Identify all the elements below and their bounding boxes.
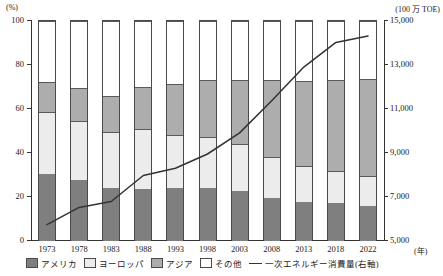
bar-segment-asia <box>232 80 248 144</box>
x-tick-label-2013: 2013 <box>289 244 319 254</box>
legend-swatch-america-icon <box>26 258 38 268</box>
legend-label-asia: アジア <box>166 257 193 269</box>
legend-item-europe: ヨーロッパ <box>84 257 144 269</box>
left-tick-label: 80 <box>0 59 24 69</box>
bar-segment-other <box>200 21 216 80</box>
bar-1973 <box>38 20 56 240</box>
bar-segment-europe <box>71 121 87 180</box>
right-tick-mark <box>384 152 388 153</box>
left-tick-label: 100 <box>0 15 24 25</box>
right-tick-label: 9,000 <box>390 147 409 157</box>
bar-segment-america <box>328 203 344 241</box>
legend-swatch-asia-icon <box>151 258 163 268</box>
bar-segment-asia <box>200 80 216 137</box>
left-tick-mark <box>27 240 31 241</box>
bar-segment-europe <box>103 132 119 187</box>
legend-swatch-europe-icon <box>84 258 96 268</box>
left-tick-label: 0 <box>0 235 24 245</box>
left-tick-mark <box>27 196 31 197</box>
bar-segment-america <box>360 206 376 241</box>
bar-2022 <box>359 20 377 240</box>
right-tick-label: 13,000 <box>390 59 413 69</box>
right-axis-line <box>384 20 385 240</box>
legend-label-europe: ヨーロッパ <box>99 257 144 269</box>
left-tick-mark <box>27 152 31 153</box>
bar-segment-america <box>264 198 280 241</box>
bar-segment-america <box>39 174 55 241</box>
left-tick-mark <box>27 108 31 109</box>
bar-segment-asia <box>167 84 183 135</box>
bar-2018 <box>327 20 345 240</box>
bar-segment-other <box>328 21 344 80</box>
right-axis-unit-label: (100 万 TOE) <box>395 3 440 14</box>
bar-segment-other <box>135 21 151 87</box>
left-tick-label: 40 <box>0 147 24 157</box>
chart-legend: アメリカ ヨーロッパ アジア その他 一次エネルギー消費量(右軸) <box>26 257 379 269</box>
bar-segment-europe <box>39 112 55 174</box>
x-tick-label-2022: 2022 <box>353 244 383 254</box>
chart-container: (%) (100 万 TOE) 100806040200 15,00013,00… <box>0 0 443 276</box>
bar-segment-other <box>39 21 55 82</box>
bar-segment-europe <box>328 171 344 203</box>
bar-segment-other <box>103 21 119 96</box>
x-tick-label-1983: 1983 <box>96 244 126 254</box>
bar-2008 <box>263 20 281 240</box>
bar-segment-europe <box>135 129 151 189</box>
right-tick-mark <box>384 20 388 21</box>
legend-label-line: 一次エネルギー消費量(右軸) <box>265 257 379 269</box>
bar-segment-america <box>167 188 183 241</box>
x-axis-unit-label: (年) <box>414 245 427 256</box>
bar-1993 <box>166 20 184 240</box>
legend-item-other: その他 <box>200 257 242 269</box>
bar-2003 <box>231 20 249 240</box>
right-tick-mark <box>384 196 388 197</box>
x-tick-label-1978: 1978 <box>64 244 94 254</box>
legend-item-asia: アジア <box>151 257 193 269</box>
legend-item-america: アメリカ <box>26 257 77 269</box>
bar-segment-other <box>71 21 87 88</box>
x-tick-label-1973: 1973 <box>32 244 62 254</box>
bar-segment-america <box>103 188 119 241</box>
bar-segment-europe <box>264 157 280 198</box>
bar-segment-asia <box>71 88 87 121</box>
left-tick-label: 20 <box>0 191 24 201</box>
bar-segment-europe <box>360 176 376 206</box>
bar-segment-asia <box>264 80 280 157</box>
x-tick-label-2018: 2018 <box>321 244 351 254</box>
left-tick-label: 60 <box>0 103 24 113</box>
bar-segment-america <box>71 180 87 241</box>
right-tick-mark <box>384 240 388 241</box>
bar-segment-asia <box>135 87 151 129</box>
bar-segment-asia <box>296 81 312 167</box>
legend-label-other: その他 <box>215 257 242 269</box>
left-tick-mark <box>27 64 31 65</box>
left-axis-unit-label: (%) <box>6 3 18 12</box>
bar-segment-asia <box>39 82 55 112</box>
bar-segment-europe <box>232 144 248 191</box>
x-tick-label-2008: 2008 <box>257 244 287 254</box>
legend-swatch-line-icon <box>249 263 262 264</box>
right-tick-label: 11,000 <box>390 103 413 113</box>
bar-2013 <box>295 20 313 240</box>
right-tick-label: 5,000 <box>390 235 409 245</box>
bar-segment-asia <box>103 96 119 132</box>
right-tick-label: 15,000 <box>390 15 413 25</box>
bar-1983 <box>102 20 120 240</box>
bar-segment-europe <box>296 166 312 201</box>
bar-segment-other <box>360 21 376 79</box>
bar-segment-america <box>200 188 216 241</box>
bar-segment-asia <box>360 79 376 176</box>
bar-segment-europe <box>167 135 183 188</box>
x-tick-label-2003: 2003 <box>225 244 255 254</box>
x-tick-label-1988: 1988 <box>128 244 158 254</box>
bar-segment-asia <box>328 80 344 171</box>
bar-segment-other <box>296 21 312 81</box>
bar-segment-other <box>167 21 183 84</box>
right-tick-label: 7,000 <box>390 191 409 201</box>
legend-swatch-other-icon <box>200 258 212 268</box>
bar-segment-other <box>232 21 248 80</box>
left-tick-mark <box>27 20 31 21</box>
bar-segment-america <box>135 189 151 241</box>
bar-segment-america <box>232 191 248 241</box>
right-tick-mark <box>384 108 388 109</box>
